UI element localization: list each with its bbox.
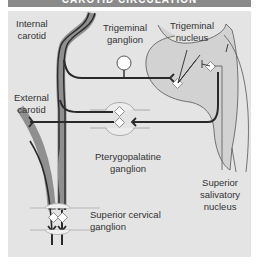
label-line: carotid [16,30,48,42]
label-line: nucleus [170,32,214,44]
label-line: Trigeminal [170,20,214,32]
pterygopalatine-ganglion-shape [90,103,150,136]
external-carotid-vessel [20,108,62,232]
label-line: salivatory [200,189,240,201]
label-trigeminal-nucleus: Trigeminal nucleus [170,20,214,44]
trigeminal-ganglion-shape [117,56,131,78]
label-line: Superior [200,177,240,189]
label-line: ganglion [95,163,161,175]
label-superior-salivatory-nucleus: Superior salivatory nucleus [200,177,240,213]
label-line: ganglion [90,221,161,233]
label-line: External [14,92,49,104]
label-line: Pterygopalatine [95,151,161,163]
label-line: Internal [16,18,48,30]
label-line: ganglion [103,34,147,46]
label-line: nucleus [200,201,240,213]
brainstem-shape [146,24,249,172]
label-pterygopalatine-ganglion: Pterygopalatine ganglion [95,151,161,175]
label-external-carotid: External carotid [14,92,49,116]
label-internal-carotid: Internal carotid [16,18,48,42]
label-line: Trigeminal [103,22,147,34]
label-trigeminal-ganglion: Trigeminal ganglion [103,22,147,46]
label-superior-cervical-ganglion: Superior cervical ganglion [90,209,161,233]
label-line: Superior cervical [90,209,161,221]
label-line: carotid [14,104,49,116]
